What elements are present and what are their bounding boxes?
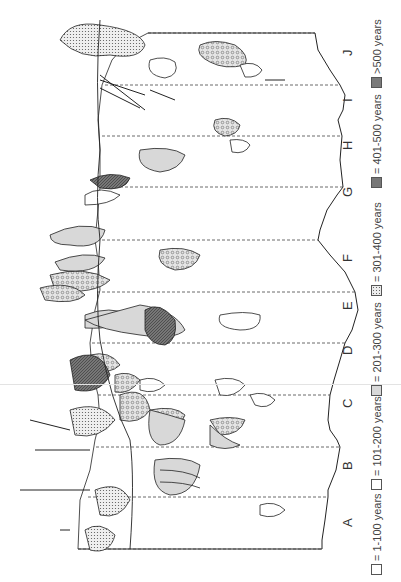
legend-item-1-100: = 1-100 years	[371, 493, 383, 575]
swatch-open-icon	[371, 564, 382, 575]
svg-text:G: G	[340, 187, 355, 197]
swatch-light-gray-icon	[371, 385, 382, 396]
zone-frame	[78, 33, 358, 549]
scan-line	[0, 384, 401, 385]
legend-item-401-500: = 401-500 years	[371, 94, 383, 188]
svg-text:A: A	[340, 518, 355, 527]
map-drawing: A B C D E F G H I J	[0, 0, 401, 582]
legend-item-201-300: = 201-300 years	[371, 302, 383, 396]
swatch-outline-icon	[371, 479, 382, 490]
svg-text:I: I	[340, 98, 355, 102]
svg-text:H: H	[340, 141, 355, 150]
age-polygons	[40, 24, 285, 551]
svg-text:F: F	[340, 254, 355, 262]
legend: = 1-100 years = 101-200 years = 201-300 …	[371, 0, 395, 582]
svg-text:D: D	[340, 346, 355, 355]
svg-text:B: B	[340, 461, 355, 470]
svg-text:E: E	[340, 301, 355, 310]
zone-dividers	[78, 33, 355, 549]
legend-item-301-400: = 301-400 years	[371, 202, 383, 296]
age-zone-map: A B C D E F G H I J = 1-100 years = 101-…	[0, 0, 401, 582]
swatch-coarse-stipple-icon	[371, 285, 382, 296]
swatch-dark-icon	[371, 77, 382, 88]
legend-item-101-200: = 101-200 years	[371, 396, 383, 490]
svg-text:J: J	[340, 50, 355, 57]
legend-item-over-500: >500 years	[371, 19, 383, 88]
swatch-fine-stipple-icon	[371, 177, 382, 188]
svg-text:C: C	[340, 399, 355, 408]
